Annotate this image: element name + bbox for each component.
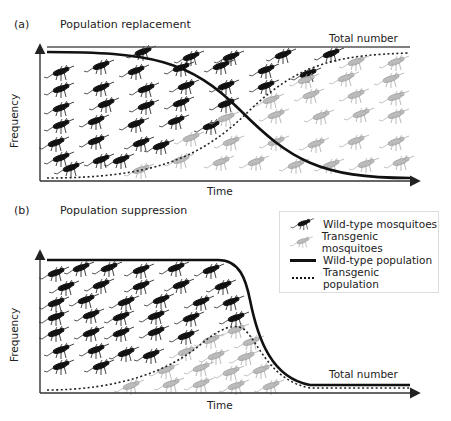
legend-label: Transgenic population [323, 266, 438, 290]
legend-label: Wild-type mosquitoes [323, 218, 437, 230]
legend-label: Transgenic mosquitoes [322, 230, 438, 254]
wild-mosquito-icon [286, 217, 320, 231]
solid-line-swatch [286, 253, 320, 267]
legend-item-transgenic-population: Transgenic population [280, 270, 438, 286]
transgenic-mosquito-icon [286, 235, 319, 249]
legend-item-transgenic-mosquitoes: Transgenic mosquitoes [280, 234, 438, 250]
legend-label: Wild-type population [323, 254, 432, 266]
panel-b-transgenic-curve [47, 326, 410, 390]
legend: Wild-type mosquitoes Transgenic mosquito… [279, 211, 439, 293]
dotted-line-swatch [286, 271, 320, 285]
